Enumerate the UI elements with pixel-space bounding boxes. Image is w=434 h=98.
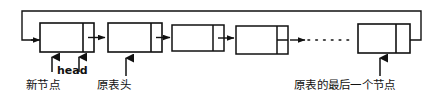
node-3-box [172, 25, 224, 51]
node-4 [236, 26, 288, 54]
label-head: head [57, 65, 88, 76]
node-1 [40, 23, 94, 52]
node-5-box [358, 24, 410, 53]
node-2-box [108, 23, 162, 52]
node-5 [358, 24, 410, 53]
label-old-list-head: 原表头 [97, 80, 131, 92]
pointer-arrows [52, 57, 380, 76]
node-3 [172, 25, 224, 51]
node-1-box [40, 23, 94, 52]
node-2 [108, 23, 162, 52]
label-new-node: 新节点 [26, 80, 60, 92]
linked-list-figure: 新节点 head 原表头 原表的最后一个节点 [0, 0, 434, 98]
label-last-node-of-old-list: 原表的最后一个节点 [294, 80, 396, 92]
